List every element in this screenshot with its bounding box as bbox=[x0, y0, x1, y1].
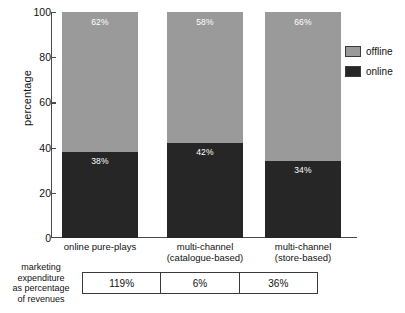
bar-segment-offline[interactable]: 62% bbox=[62, 12, 138, 152]
legend-item-offline[interactable]: offline bbox=[345, 46, 405, 57]
x-category-label-3-line2: (store-based) bbox=[243, 252, 363, 263]
y-tick-label-100: 100 bbox=[5, 6, 51, 18]
x-category-label-1-line1: online pure-plays bbox=[40, 241, 160, 252]
bar-label-offline: 66% bbox=[265, 17, 341, 27]
bar-label-online: 38% bbox=[62, 156, 138, 166]
y-tick-label-20: 20 bbox=[5, 187, 51, 199]
bar-label-online: 34% bbox=[265, 165, 341, 175]
legend-label-offline: offline bbox=[366, 46, 393, 57]
footer-row-label-line2: expenditure bbox=[2, 273, 80, 284]
bar-segment-offline[interactable]: 58% bbox=[167, 12, 243, 143]
x-category-label-1: online pure-plays bbox=[40, 241, 160, 252]
footer-table-cell-2: 6% bbox=[161, 273, 239, 293]
footer-row-label-line1: marketing bbox=[2, 262, 80, 273]
plot-area: 62% 38% 58% 42% 66% 34% bbox=[51, 12, 357, 238]
bar-segment-online[interactable]: 42% bbox=[167, 143, 243, 238]
footer-table: 119% 6% 36% bbox=[82, 272, 318, 294]
y-tick-label-60: 60 bbox=[5, 96, 51, 108]
legend: offline online bbox=[345, 46, 405, 86]
footer-table-cell-3: 36% bbox=[240, 273, 317, 293]
chart-root: percentage 100 80 60 40 20 0 62% 38% bbox=[0, 0, 405, 313]
bar-segment-online[interactable]: 38% bbox=[62, 152, 138, 238]
bar-segment-offline[interactable]: 66% bbox=[265, 12, 341, 161]
bar-label-offline: 62% bbox=[62, 17, 138, 27]
footer-table-cell-1: 119% bbox=[83, 273, 161, 293]
legend-label-online: online bbox=[366, 66, 393, 77]
bar-segment-online[interactable]: 34% bbox=[265, 161, 341, 238]
legend-swatch-online-icon bbox=[345, 66, 361, 77]
legend-item-online[interactable]: online bbox=[345, 66, 405, 77]
y-tick-label-80: 80 bbox=[5, 51, 51, 63]
footer-row-label-line3: as percentage bbox=[2, 283, 80, 294]
footer-row-label: marketing expenditure as percentage of r… bbox=[2, 262, 80, 304]
x-category-label-3: multi-channel (store-based) bbox=[243, 241, 363, 263]
bar-label-offline: 58% bbox=[167, 17, 243, 27]
legend-swatch-offline-icon bbox=[345, 46, 361, 57]
x-category-label-3-line1: multi-channel bbox=[243, 241, 363, 252]
y-tick-label-40: 40 bbox=[5, 142, 51, 154]
footer-row-label-line4: of revenues bbox=[2, 294, 80, 305]
bar-label-online: 42% bbox=[167, 147, 243, 157]
